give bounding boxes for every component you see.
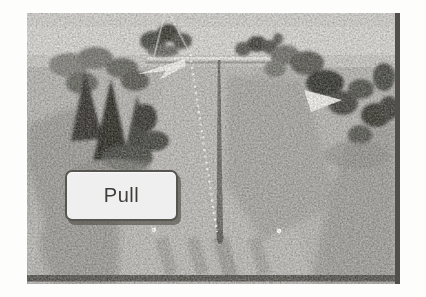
- field-graphics: [27, 13, 395, 284]
- pull-button[interactable]: Pull: [65, 170, 178, 221]
- film-grain-overlay: [27, 13, 395, 284]
- game-scene: Pull: [27, 13, 400, 284]
- page-background: Pull: [0, 0, 426, 297]
